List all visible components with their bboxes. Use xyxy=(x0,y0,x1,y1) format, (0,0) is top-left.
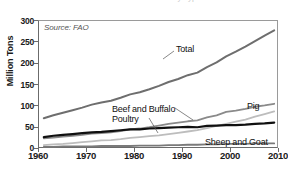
y-tick-label: 150 xyxy=(0,80,34,90)
plot-area xyxy=(38,20,278,148)
series-label-sheep-and-goat: Sheep and Goat xyxy=(205,137,268,147)
series-label-total: Total xyxy=(176,44,194,54)
y-tick-label: 300 xyxy=(0,16,34,26)
chart-figure: Global Meat Production by Type Million T… xyxy=(0,0,288,180)
chart-title-clipped: Global Meat Production by Type xyxy=(0,0,288,2)
series-label-beef-and-buffalo: Beef and Buffalo xyxy=(112,104,175,114)
series-label-poultry: Poultry xyxy=(112,114,139,124)
source-note: Source: FAO xyxy=(44,23,89,32)
series-label-pig: Pig xyxy=(247,101,259,111)
y-tick-label: 50 xyxy=(0,122,34,132)
y-tick-label: 250 xyxy=(0,37,34,47)
y-tick-label: 100 xyxy=(0,101,34,111)
y-tick-label: 200 xyxy=(0,58,34,68)
series-lines xyxy=(39,21,279,149)
x-tick-label: 2010 xyxy=(261,150,288,161)
